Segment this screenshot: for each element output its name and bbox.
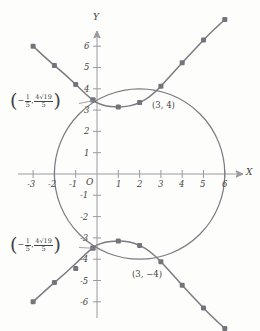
plot-canvas	[0, 0, 260, 331]
y-tick-label--3: -3	[80, 233, 88, 243]
data-point	[158, 84, 163, 89]
data-point	[31, 299, 36, 304]
data-point	[201, 306, 206, 311]
lower-branch-curve	[33, 241, 225, 328]
data-point	[90, 97, 95, 102]
y-axis-label: Y	[93, 12, 99, 22]
fraction-x: 15	[25, 238, 31, 253]
data-point	[137, 100, 142, 105]
y-tick-label--1: -1	[80, 190, 88, 200]
data-point	[158, 259, 163, 264]
y-tick-label--5: -5	[80, 276, 88, 286]
point-label-3-4: (3, 4)	[152, 100, 175, 110]
data-point	[52, 63, 57, 68]
origin-label: O	[86, 177, 93, 187]
point-label-lower-left: (−15,4√195)	[10, 238, 61, 253]
axis-group	[18, 31, 243, 318]
y-axis-arrow	[94, 31, 100, 38]
x-tick-label--1: -1	[69, 179, 77, 189]
y-tick-label--2: -2	[80, 212, 88, 222]
minus-sign: −	[17, 240, 24, 249]
y-tick-label-5: 5	[84, 62, 89, 72]
minus-sign: −	[17, 96, 24, 105]
data-point	[73, 82, 78, 87]
y-tick-label-6: 6	[84, 41, 89, 51]
x-tick-label--2: -2	[48, 179, 56, 189]
y-tick-label-2: 2	[84, 126, 89, 136]
point-label-upper-left: (−15,4√195)	[10, 94, 61, 109]
y-tick-label--4: -4	[80, 254, 88, 264]
data-point	[116, 104, 121, 109]
fraction-x: 15	[25, 94, 31, 109]
data-point	[31, 44, 36, 49]
data-point	[201, 38, 206, 43]
x-axis-arrow	[236, 171, 243, 177]
x-tick-label-5: 5	[200, 179, 205, 189]
data-point	[116, 239, 121, 244]
x-tick-label--3: -3	[27, 179, 35, 189]
data-point	[137, 243, 142, 248]
y-tick-label-1: 1	[84, 148, 89, 158]
data-point	[222, 326, 227, 331]
data-point	[73, 266, 78, 271]
x-tick-label-1: 1	[116, 179, 121, 189]
paren-close: )	[53, 89, 60, 111]
point-label-3-minus4: (3, −4)	[132, 269, 162, 279]
x-tick-label-3: 3	[158, 179, 163, 189]
y-tick-label-4: 4	[84, 84, 89, 94]
y-tick-label-3: 3	[84, 105, 89, 115]
fraction-y: 4√195	[34, 238, 53, 253]
data-point	[52, 280, 57, 285]
data-point	[180, 60, 185, 65]
y-tick-label--6: -6	[80, 297, 88, 307]
data-point	[222, 17, 227, 22]
fraction-y: 4√195	[34, 94, 53, 109]
x-tick-label-6: 6	[222, 179, 227, 189]
x-tick-label-4: 4	[179, 179, 184, 189]
x-axis-label: X	[246, 167, 252, 177]
x-tick-label-2: 2	[137, 179, 142, 189]
upper-branch-curve	[33, 20, 225, 107]
paren-close: )	[53, 233, 60, 255]
data-point	[180, 283, 185, 288]
math-figure: Y X O -3 -2 -1 1 2 3 4 5 6 6 5 4 3 2 1 -…	[0, 0, 260, 331]
